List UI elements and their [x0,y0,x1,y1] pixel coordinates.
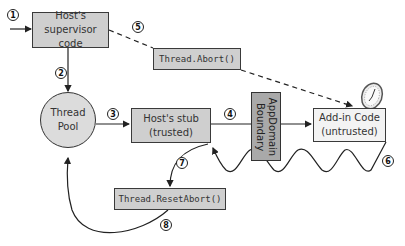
clock-icon [358,80,386,111]
step-2-badge: 2 [55,67,67,79]
step-4-badge: 4 [224,108,236,120]
appdomain-boundary: AppDomain Boundary [251,92,281,161]
addin-line1: Add-in Code [319,111,380,125]
supervisor-line2: supervisor code [33,23,108,51]
step-3-badge: 3 [107,108,119,120]
supervisor-code-box: Host's supervisor code [32,12,109,48]
addin-code-box: Add-in Code (untrusted) [313,108,386,142]
host-stub-line1: Host's stub [143,112,199,126]
thread-pool-line2: Pool [51,120,86,134]
wavy-exception-path [213,142,386,172]
addin-line2: (untrusted) [319,125,380,139]
step-5-badge: 5 [132,21,144,33]
host-stub-box: Host's stub (trusted) [131,108,211,143]
reset-abort-label: Thread.ResetAbort() [119,192,222,206]
step-8-badge: 8 [160,219,172,231]
boundary-label: AppDomain Boundary [254,97,278,155]
step-1-badge: 1 [7,9,19,21]
host-stub-line2: (trusted) [143,126,199,140]
thread-abort-box: Thread.Abort() [153,48,241,70]
thread-pool-circle: Thread Pool [40,92,96,148]
thread-abort-label: Thread.Abort() [159,52,235,66]
step-6-badge: 6 [382,155,394,167]
thread-pool-line1: Thread [51,106,86,120]
supervisor-line1: Host's [33,9,108,23]
step-7-badge: 7 [176,157,188,169]
reset-abort-box: Thread.ResetAbort() [114,188,226,210]
